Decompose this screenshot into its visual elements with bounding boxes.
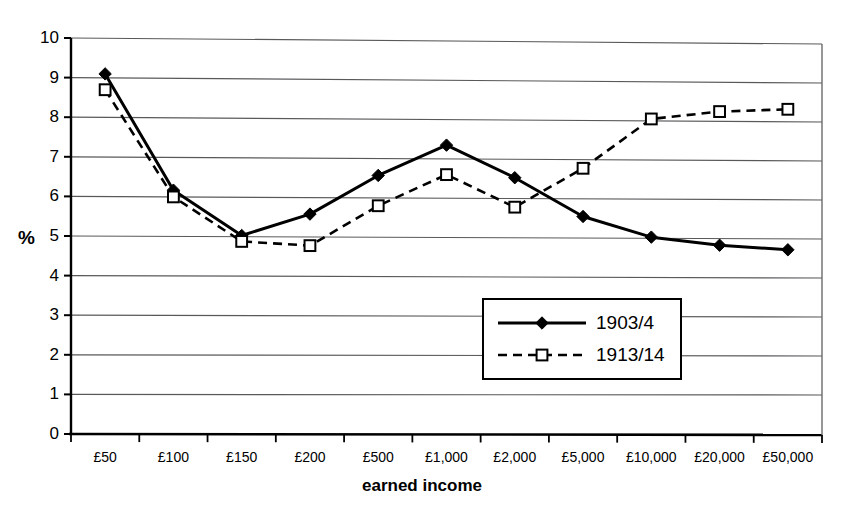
x-tick-label: £50,000: [763, 450, 814, 465]
data-series-group: [99, 68, 794, 256]
x-tick-label: £5,000: [562, 450, 605, 465]
x-tick-label: £100: [158, 450, 189, 465]
gridline-group: [71, 38, 822, 395]
y-axis-title: %: [18, 228, 35, 247]
y-tick-label: 3: [19, 306, 59, 323]
y-tick-label: 7: [19, 148, 59, 165]
y-tick-label: 1: [19, 385, 59, 402]
legend-swatch-1903-4: [496, 310, 588, 336]
line-chart-plot: [0, 0, 844, 514]
chart-figure: 012345678910 £50£100£150£200£500£1,000£2…: [0, 0, 844, 514]
x-tick-label: £2,000: [493, 450, 536, 465]
x-tick-label: £10,000: [626, 450, 677, 465]
y-tick-label: 6: [19, 187, 59, 204]
legend-swatch-1913-14: [496, 342, 588, 368]
y-tick-label: 9: [19, 69, 59, 86]
x-tick-label: £500: [363, 450, 394, 465]
y-tick-label: 2: [19, 346, 59, 363]
legend-item-1913-14[interactable]: 1913/14: [484, 342, 684, 368]
legend-label-1913-14: 1913/14: [596, 344, 665, 366]
legend-item-1903-4[interactable]: 1903/4: [484, 310, 684, 336]
y-tick-label: 8: [19, 108, 59, 125]
x-tick-label: £20,000: [694, 450, 745, 465]
x-tick-label: £1,000: [425, 450, 468, 465]
x-axis-title: earned income: [0, 477, 844, 495]
x-tick-label: £150: [226, 450, 257, 465]
x-tick-label: £200: [294, 450, 325, 465]
legend-label-1903-4: 1903/4: [596, 312, 654, 334]
chart-legend: 1903/4 1913/14: [482, 298, 682, 380]
axis-group: [64, 38, 822, 443]
y-tick-label: 10: [19, 29, 59, 46]
y-tick-label: 4: [19, 267, 59, 284]
y-tick-label: 0: [19, 425, 59, 442]
x-tick-label: £50: [93, 450, 116, 465]
